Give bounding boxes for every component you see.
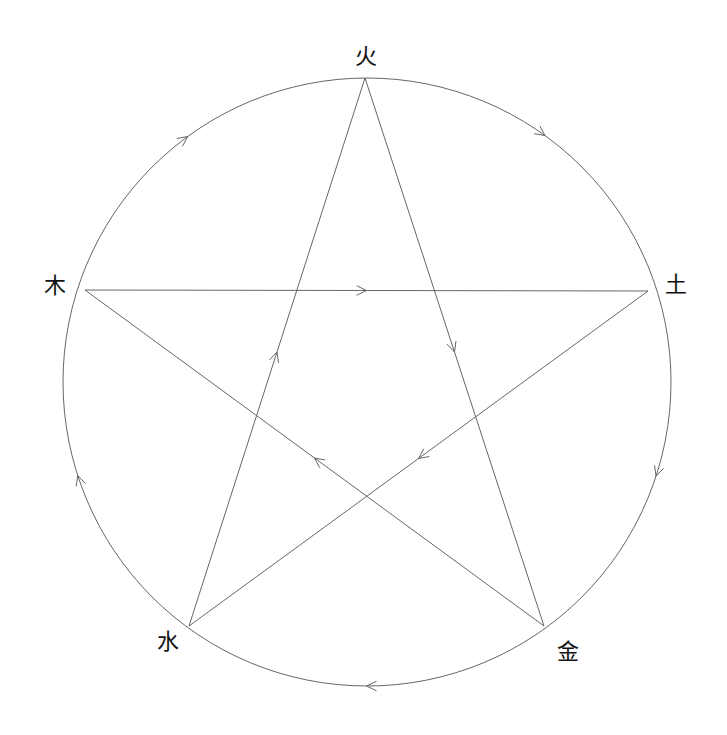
generating-cycle-circle: [63, 78, 671, 686]
arrowheads: [76, 126, 663, 691]
node-label-earth: 土: [665, 274, 687, 296]
node-label-water: 水: [157, 631, 179, 653]
node-label-wood: 木: [44, 275, 66, 297]
node-label-metal: 金: [557, 641, 579, 663]
outer-circle: [63, 78, 671, 686]
node-label-fire: 火: [355, 46, 377, 68]
overcoming-cycle-pentagram: [85, 78, 648, 626]
wuxing-diagram: [0, 0, 727, 735]
